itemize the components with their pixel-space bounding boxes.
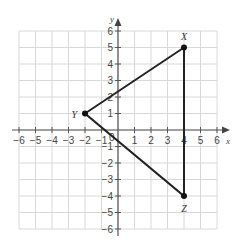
x-tick-label: 5 bbox=[198, 135, 204, 146]
vertex-z bbox=[181, 193, 187, 199]
x-tick-label: −3 bbox=[63, 135, 75, 146]
x-tick-label: 1 bbox=[132, 135, 138, 146]
y-tick-label: 6 bbox=[107, 26, 113, 37]
y-tick-label: 3 bbox=[107, 75, 113, 86]
y-tick-label: −1 bbox=[102, 141, 114, 152]
y-tick-label: −2 bbox=[102, 158, 114, 169]
y-axis-arrow-icon bbox=[115, 18, 122, 26]
y-tick-label: −3 bbox=[102, 174, 114, 185]
y-axis-label: y bbox=[109, 14, 114, 24]
vertex-label-x: X bbox=[180, 31, 188, 42]
y-tick-label: −6 bbox=[102, 224, 114, 235]
y-tick-label: −5 bbox=[102, 207, 114, 218]
x-tick-label: 2 bbox=[148, 135, 154, 146]
triangle-xyz: XYZ bbox=[71, 31, 188, 215]
x-tick-label: −6 bbox=[13, 135, 25, 146]
vertex-label-z: Z bbox=[181, 203, 187, 214]
coordinate-plane: x y 0 −6−5−4−3−2−1123456654321−1−2−3−4−5… bbox=[0, 0, 240, 251]
x-tick-label: −5 bbox=[30, 135, 42, 146]
y-tick-label: 5 bbox=[107, 42, 113, 53]
x-axis-label: x bbox=[225, 136, 230, 146]
x-axis-arrow-icon bbox=[222, 127, 230, 134]
y-tick-label: 4 bbox=[107, 59, 113, 70]
vertex-y bbox=[82, 111, 88, 117]
x-tick-label: −4 bbox=[46, 135, 58, 146]
y-tick-label: −4 bbox=[102, 191, 114, 202]
y-tick-label: 1 bbox=[107, 108, 113, 119]
x-tick-label: −2 bbox=[79, 135, 91, 146]
x-tick-label: 3 bbox=[165, 135, 171, 146]
x-tick-label: 6 bbox=[214, 135, 220, 146]
vertex-x bbox=[181, 45, 187, 51]
